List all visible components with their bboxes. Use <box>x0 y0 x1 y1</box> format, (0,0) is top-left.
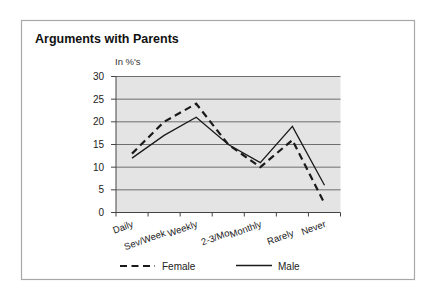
y-tick-label: 20 <box>93 116 105 127</box>
y-tick-label: 0 <box>98 207 104 218</box>
y-tick-label: 30 <box>93 71 105 82</box>
y-tick-label: 15 <box>93 139 105 150</box>
y-tick-label: 5 <box>98 184 104 195</box>
legend-label-male: Male <box>278 261 300 272</box>
y-tick-label: 25 <box>93 94 105 105</box>
legend-label-female: Female <box>162 261 196 272</box>
y-axis-unit-label: In %'s <box>115 56 141 67</box>
chart-title: Arguments with Parents <box>35 32 179 46</box>
chart: Arguments with Parents In %'s 0510152025… <box>0 0 434 296</box>
y-tick-label: 10 <box>93 162 105 173</box>
